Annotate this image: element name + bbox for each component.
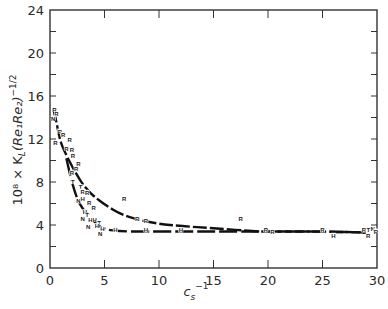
data-point-marker: R xyxy=(91,205,96,211)
x-axis-label: cs−1 xyxy=(183,281,208,302)
y-tick-label: 24 xyxy=(27,3,44,18)
x-tick-label: 30 xyxy=(369,273,386,288)
y-tick-label: 0 xyxy=(36,261,44,276)
data-point-marker: R xyxy=(67,137,72,143)
data-point-marker: R xyxy=(144,218,149,224)
data-point-marker: R xyxy=(264,227,269,233)
data-point-marker: H xyxy=(93,217,97,223)
data-point-marker: N xyxy=(98,231,102,237)
data-point-marker: N xyxy=(81,216,85,222)
x-tick-label: 20 xyxy=(260,273,277,288)
x-tick-label: 10 xyxy=(151,273,168,288)
x-tick-label: 0 xyxy=(46,273,54,288)
y-tick-label: 4 xyxy=(36,218,44,233)
data-point-marker: R xyxy=(135,216,140,222)
data-point-marker: H xyxy=(179,227,183,233)
data-point-marker: R xyxy=(70,170,75,176)
y-tick-label: 16 xyxy=(27,89,44,104)
data-point-marker: H xyxy=(95,223,99,229)
upper-curve xyxy=(53,109,366,233)
data-point-marker: R xyxy=(53,140,58,146)
data-point-marker: H xyxy=(144,227,148,233)
data-point-marker: R xyxy=(320,227,325,233)
data-markers: RRNRRRRRRRRRRTTRRNHRRHTNHHTHHNNHRRRHHRRR… xyxy=(51,107,379,239)
data-point-marker: R xyxy=(366,233,371,239)
x-tick-label: 5 xyxy=(100,273,108,288)
chart: RRNRRRRRRRRRRTTRRNHRRHTNHHTHHNNHRRRHHRRR… xyxy=(0,0,388,309)
data-point-marker: H xyxy=(113,227,117,233)
data-point-marker: T xyxy=(71,179,75,185)
data-point-marker: R xyxy=(64,146,69,152)
data-point-marker: H xyxy=(331,233,335,239)
data-point-marker: N xyxy=(86,224,90,230)
y-tick-label: 8 xyxy=(36,175,44,190)
y-axis-label: 10⁸ × KL(Re₁Re₂)−1/2 xyxy=(8,74,27,205)
data-point-marker: R xyxy=(61,132,66,138)
y-tick-label: 20 xyxy=(27,46,44,61)
tick-labels: 05101520253004812162024 xyxy=(27,3,385,288)
data-point-marker: R xyxy=(374,229,379,235)
data-point-marker: R xyxy=(71,153,76,159)
data-point-marker: H xyxy=(81,196,85,202)
fitted-curves xyxy=(53,109,366,233)
data-point-marker: R xyxy=(239,216,244,222)
lower-curve xyxy=(66,158,366,232)
y-tick-label: 12 xyxy=(27,132,44,147)
data-point-marker: R xyxy=(74,166,79,172)
data-point-marker: R xyxy=(70,147,75,153)
data-point-marker: R xyxy=(122,196,127,202)
data-point-marker: N xyxy=(51,116,55,122)
data-point-marker: R xyxy=(270,229,275,235)
data-point-marker: R xyxy=(85,190,90,196)
x-tick-label: 25 xyxy=(314,273,331,288)
